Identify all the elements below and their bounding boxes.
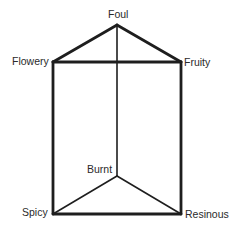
vertex-label-burnt: Burnt	[87, 164, 112, 175]
vertex-label-spicy: Spicy	[22, 207, 48, 218]
vertex-label-resinous: Resinous	[185, 209, 229, 220]
edge-foul-fruity	[117, 25, 181, 62]
vertex-label-fruity: Fruity	[184, 57, 210, 68]
edge-burnt-spicy	[53, 176, 117, 214]
vertex-label-flowery: Flowery	[12, 56, 49, 67]
edge-foul-flowery	[53, 25, 117, 62]
odor-prism-diagram: Foul Flowery Fruity Burnt Spicy Resinous	[0, 0, 233, 236]
edge-burnt-resinous	[117, 176, 181, 214]
vertex-label-foul: Foul	[108, 9, 128, 20]
prism-drawing	[0, 0, 233, 236]
